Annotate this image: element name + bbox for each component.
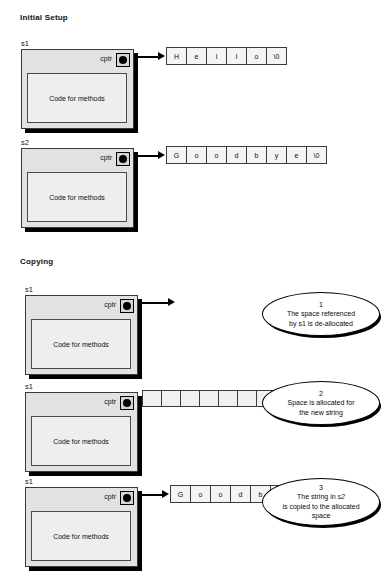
string-cell: [218, 390, 238, 407]
pointer-arrow-s1-hello: [137, 52, 165, 61]
string-cells-hello: Hello\0: [166, 47, 287, 65]
cptr-slot: [116, 53, 130, 67]
string-cell: d: [226, 146, 247, 164]
string-cell: e: [286, 146, 307, 164]
methods-region: Code for methods: [27, 172, 127, 222]
methods-label: Code for methods: [53, 533, 109, 540]
pointer-row: cptr: [26, 488, 137, 508]
pointer-row: cptr: [22, 149, 133, 169]
cptr-label: cptr: [104, 301, 116, 308]
string-cell: [161, 390, 181, 407]
pointer-row: cptr: [26, 296, 137, 316]
cptr-label: cptr: [100, 55, 112, 62]
string-cell: e: [186, 47, 207, 65]
object-label-s1-step1: s1: [25, 285, 33, 294]
string-cell: \0: [266, 47, 287, 65]
string-cell: l: [226, 47, 247, 65]
methods-label: Code for methods: [49, 194, 105, 201]
cptr-label: cptr: [100, 154, 112, 161]
object-box-s1: cptr Code for methods: [21, 49, 134, 129]
note-line-1: The space referenced: [278, 309, 364, 319]
object-box-s1-step2: cptr Code for methods: [25, 392, 138, 472]
section-title-initial-setup: Initial Setup: [20, 13, 68, 22]
string-cell: d: [230, 485, 251, 503]
note-line-2: is copied to the allocated: [273, 502, 368, 512]
object-label-s2: s2: [21, 138, 29, 147]
section-title-copying: Copying: [20, 257, 53, 266]
note-line-1: The string in s2: [288, 492, 354, 502]
note-line-3: space: [303, 511, 340, 521]
string-cell: l: [206, 47, 227, 65]
string-cell: [237, 390, 257, 407]
object-label-s1-step3: s1: [25, 477, 33, 486]
string-cells-goodbye: Goodbye\0: [166, 146, 327, 164]
pointer-arrow-step3: [141, 490, 169, 499]
note-number: 2: [319, 389, 323, 398]
string-cell: [199, 390, 219, 407]
string-cell: [180, 390, 200, 407]
methods-region: Code for methods: [31, 416, 131, 466]
methods-region: Code for methods: [27, 73, 127, 123]
annotation-note-1: 1 The space referenced by s1 is de-alloc…: [262, 292, 380, 336]
note-line-1: Space is allocated for: [279, 398, 364, 408]
note-number: 1: [319, 300, 323, 309]
cptr-label: cptr: [104, 398, 116, 405]
string-cell: o: [246, 47, 267, 65]
cptr-slot: [120, 396, 134, 410]
pointer-dot-icon: [119, 155, 127, 163]
dangling-pointer-arrow-step1: [141, 298, 175, 307]
string-cell: o: [206, 146, 227, 164]
string-cell: H: [166, 47, 187, 65]
object-label-s1-step2: s1: [25, 382, 33, 391]
string-cell: y: [266, 146, 287, 164]
object-box-s1-step1: cptr Code for methods: [25, 295, 138, 375]
string-cell: b: [246, 146, 267, 164]
pointer-dot-icon: [123, 302, 131, 310]
pointer-row: cptr: [22, 50, 133, 70]
object-box-s1-step3: cptr Code for methods: [25, 487, 138, 567]
methods-label: Code for methods: [53, 438, 109, 445]
note-emphasis-s2: s2: [338, 493, 345, 500]
methods-region: Code for methods: [31, 511, 131, 561]
cptr-label: cptr: [104, 493, 116, 500]
methods-region: Code for methods: [31, 319, 131, 369]
cptr-slot: [120, 299, 134, 313]
string-cell: G: [166, 146, 187, 164]
string-cell: o: [190, 485, 211, 503]
object-label-s1: s1: [21, 39, 29, 48]
string-cell: [142, 390, 162, 407]
annotation-note-3: 3 The string in s2 is copied to the allo…: [262, 478, 380, 526]
pointer-dot-icon: [119, 56, 127, 64]
string-cell: o: [186, 146, 207, 164]
pointer-arrow-s2-goodbye: [137, 151, 165, 160]
object-box-s2: cptr Code for methods: [21, 148, 134, 228]
pointer-dot-icon: [123, 399, 131, 407]
annotation-note-2: 2 Space is allocated for the new string: [262, 381, 380, 425]
note-line-2: by s1 is de-allocated: [280, 319, 362, 329]
pointer-dot-icon: [123, 494, 131, 502]
methods-label: Code for methods: [53, 341, 109, 348]
string-cell: o: [210, 485, 231, 503]
string-cell: \0: [306, 146, 327, 164]
cptr-slot: [120, 491, 134, 505]
methods-label: Code for methods: [49, 95, 105, 102]
string-cell: G: [170, 485, 191, 503]
note-number: 3: [319, 483, 323, 492]
pointer-row: cptr: [26, 393, 137, 413]
note-line-2: the new string: [290, 408, 352, 418]
cptr-slot: [116, 152, 130, 166]
